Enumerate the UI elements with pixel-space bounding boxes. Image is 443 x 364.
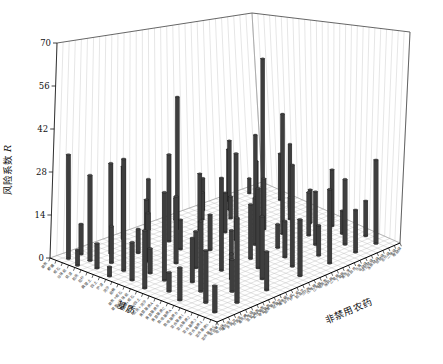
bar-3d <box>229 229 233 255</box>
y-axis-title: 风险系数R <box>2 145 13 195</box>
z-axis-title: 非禁用农药 <box>323 296 373 326</box>
bar-3d <box>75 249 79 266</box>
bar-3d <box>327 188 331 264</box>
bar-3d <box>219 177 223 272</box>
bar-3d <box>374 159 378 245</box>
bar-3d <box>298 218 303 277</box>
bar-3d <box>190 237 195 283</box>
bar-3d <box>307 191 311 236</box>
bar-3d <box>208 214 212 251</box>
bar-3d <box>203 249 208 303</box>
bar-3d <box>198 220 203 293</box>
bar-3d <box>167 271 172 292</box>
bar-3d <box>276 223 280 249</box>
bar-3d <box>212 285 217 314</box>
bar-3d <box>109 225 113 264</box>
bar-3d <box>148 247 153 274</box>
chart-text: 42 <box>37 124 48 134</box>
bar-3d <box>256 187 260 269</box>
bar-3d <box>95 242 99 269</box>
bar-3d <box>162 191 167 281</box>
bar-3d <box>248 204 252 260</box>
bar-3d <box>283 220 287 258</box>
3d-risk-bar-chart-figure: 01428425670风险系数R草炭椰糠蛭石珍珠岩菇渣稻壳秸秆腐殖土园土炉渣河沙… <box>0 0 443 364</box>
bar-3d <box>178 219 182 250</box>
bar-3d <box>130 241 135 281</box>
bar-3d <box>343 178 347 245</box>
bar-3d <box>230 259 235 293</box>
bar-3d <box>177 267 182 302</box>
bar-3d <box>260 215 265 280</box>
3d-bar-chart-canvas: 01428425670风险系数R草炭椰糠蛭石珍珠岩菇渣稻壳秸秆腐殖土园土炉渣河沙… <box>0 0 443 364</box>
bar-3d <box>317 224 321 256</box>
chart-text: 28 <box>36 167 47 177</box>
chart-text: 14 <box>35 210 46 220</box>
bar-3d <box>142 230 147 290</box>
bar-3d <box>167 154 171 243</box>
bar-3d <box>290 164 294 268</box>
chart-text: 0 <box>39 253 44 263</box>
bar-3d <box>229 196 233 220</box>
bar-3d <box>121 158 126 272</box>
bar-3d <box>136 228 140 254</box>
bar-3d <box>364 200 368 237</box>
bar-3d <box>107 266 112 277</box>
bar-3d <box>235 217 240 304</box>
bar-3d <box>88 174 92 262</box>
chart-text: 70 <box>40 38 51 48</box>
bar-3d <box>264 251 269 292</box>
chart-text: 56 <box>39 81 50 91</box>
bar-3d <box>353 209 357 253</box>
bar-3d <box>247 177 251 194</box>
bar-3d <box>66 154 70 260</box>
bar-3d <box>174 195 178 264</box>
bar-3d <box>280 113 284 235</box>
y-axis: 01428425670风险系数R <box>2 38 57 263</box>
